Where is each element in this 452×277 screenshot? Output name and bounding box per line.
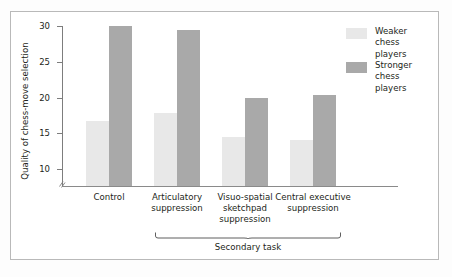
bar-central-stronger[interactable]	[313, 95, 336, 186]
bar-articulatory-stronger[interactable]	[177, 30, 200, 186]
legend-label-stronger: Stronger chess players	[375, 60, 412, 94]
x-label-central: Central executive suppression	[268, 192, 358, 214]
x-axis-line	[62, 186, 398, 187]
bar-central-weaker[interactable]	[290, 140, 313, 186]
bar-control-stronger[interactable]	[109, 26, 132, 186]
bar-group-control	[86, 26, 132, 186]
bar-visuospatial-stronger[interactable]	[245, 98, 268, 187]
secondary-task-bracket	[155, 232, 341, 239]
y-tick-label-25: 25	[39, 58, 50, 67]
y-tick-label-15: 15	[39, 129, 50, 138]
secondary-task-label: Secondary task	[155, 242, 341, 253]
bar-control-weaker[interactable]	[86, 121, 109, 186]
bar-group-articulatory-suppression	[154, 26, 200, 186]
bar-articulatory-weaker[interactable]	[154, 113, 177, 187]
y-axis-title: Quality of chess-move selection	[18, 26, 32, 196]
plot-area	[62, 26, 339, 186]
legend-label-weaker: Weaker chess players	[375, 26, 407, 60]
y-tick-label-10: 10	[39, 165, 50, 174]
figure-canvas: 30 25 20 15 10 Quality of chess-move sel…	[0, 0, 452, 277]
legend-swatch-stronger	[346, 62, 367, 73]
bar-visuospatial-weaker[interactable]	[222, 137, 245, 186]
bar-group-central-executive-suppression	[290, 26, 336, 186]
bar-group-visuo-spatial-sketchpad-suppression	[222, 26, 268, 186]
y-tick-label-20: 20	[39, 93, 50, 102]
y-tick-label-30: 30	[39, 22, 50, 31]
legend-swatch-weaker	[346, 28, 367, 39]
